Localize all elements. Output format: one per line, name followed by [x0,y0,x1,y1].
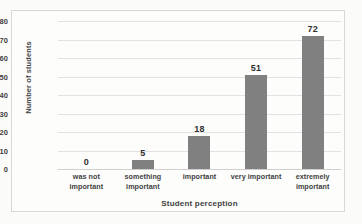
y-axis-tick-label: 40 [0,91,8,100]
bar-group[interactable]: 72 [284,21,341,169]
bar-group[interactable]: 5 [115,21,172,169]
y-axis-tick-label: 50 [0,72,8,81]
bar[interactable] [302,36,324,169]
x-axis-title: Student perception [58,199,341,208]
bar-series: 05185172 [58,21,341,169]
bar-value-label: 72 [284,24,341,34]
x-axis-category-label: important [171,172,228,193]
y-axis-tick-label: 60 [0,54,8,63]
x-axis-category-label: extremely important [284,172,341,193]
gridline [58,169,341,170]
y-axis-tick-labels: 80706050403020100 [0,21,8,169]
bar[interactable] [188,136,210,169]
bar-value-label: 51 [228,63,285,73]
x-axis-category-label: was not important [58,172,115,193]
bar-value-label: 18 [171,124,228,134]
bar-group[interactable]: 18 [171,21,228,169]
y-axis-tick-label: 80 [0,17,8,26]
x-axis-category-labels: was not importantsomething importantimpo… [58,172,341,193]
y-axis-title: Number of students [24,18,33,138]
y-axis-tick-label: 70 [0,35,8,44]
bar-value-label: 5 [115,148,172,158]
bar[interactable] [132,160,154,169]
chart-frame: Number of students 80706050403020100 051… [11,10,345,212]
plot-area: 05185172 [58,21,341,169]
y-axis-tick-label: 10 [0,146,8,155]
bar[interactable] [245,75,267,169]
bar-group[interactable]: 0 [58,21,115,169]
y-axis-tick-label: 30 [0,109,8,118]
bar-value-label: 0 [58,157,115,167]
x-axis-category-label: very important [228,172,285,193]
bar-group[interactable]: 51 [228,21,285,169]
y-axis-tick-label: 20 [0,128,8,137]
x-axis-category-label: something important [115,172,172,193]
y-axis-tick-label: 0 [0,165,8,174]
